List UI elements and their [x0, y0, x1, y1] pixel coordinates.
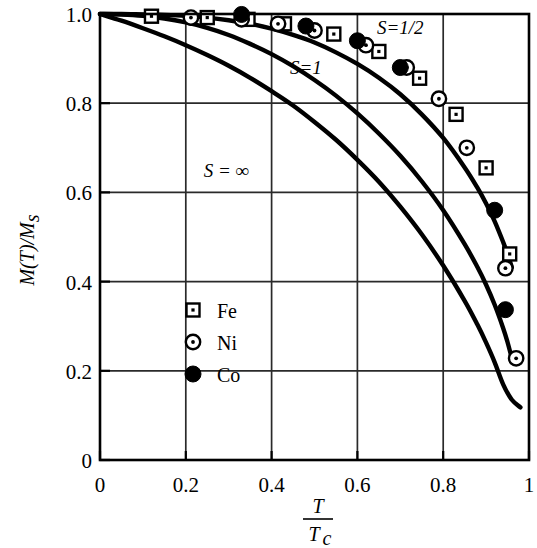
curve-label: S = ∞	[204, 160, 249, 181]
x-tick-label: 0.2	[173, 473, 199, 497]
x-axis-tick-labels: 00.20.40.60.81	[95, 473, 535, 497]
curve-label: S=1/2	[377, 17, 424, 38]
marker-circle-center-dot	[504, 266, 508, 270]
y-axis-tick-labels: 00.20.40.60.81.0	[66, 3, 93, 473]
curve-label: S=1	[290, 57, 322, 78]
marker-square-center-dot	[377, 50, 380, 53]
marker-circle-center-dot	[437, 97, 441, 101]
marker-square-center-dot	[508, 252, 511, 255]
marker-filled-circle	[487, 202, 503, 218]
x-tick-label: 0.4	[258, 473, 285, 497]
marker-square-center-dot	[418, 77, 421, 80]
marker-square-center-dot	[454, 113, 457, 116]
y-tick-label: 0	[82, 449, 93, 473]
y-axis-title: M(T)/Ms	[16, 214, 43, 286]
marker-circle-center-dot	[276, 22, 280, 26]
x-tick-label: 0.6	[344, 473, 370, 497]
legend-entry-ni: Ni	[186, 332, 238, 354]
data-markers	[145, 6, 523, 365]
svg-text:M(T)/Ms: M(T)/Ms	[16, 214, 43, 286]
legend: FeNiCo	[185, 300, 240, 386]
marker-square-center-dot	[332, 32, 335, 35]
y-tick-label: 0.4	[66, 271, 93, 295]
marker-square-center-dot	[191, 308, 194, 311]
legend-entry-co: Co	[185, 364, 240, 386]
marker-square-center-dot	[206, 16, 209, 19]
x-tick-label: 0	[95, 473, 106, 497]
marker-square-center-dot	[485, 166, 488, 169]
x-axis-title-denominator-subscript: c	[323, 527, 332, 548]
legend-label: Ni	[217, 332, 237, 354]
x-axis-title-numerator: T	[312, 495, 325, 517]
marker-filled-circle	[392, 60, 408, 76]
legend-label: Co	[217, 364, 240, 386]
legend-entry-fe: Fe	[187, 300, 238, 322]
marker-filled-circle	[185, 366, 201, 382]
x-axis-title-denominator: T	[308, 523, 321, 545]
y-axis-title-text: M(T)/M	[16, 221, 39, 287]
x-tick-label: 0.8	[430, 473, 456, 497]
y-tick-label: 0.2	[66, 360, 92, 384]
marker-filled-circle	[298, 18, 314, 34]
marker-circle-center-dot	[189, 16, 193, 20]
marker-circle-center-dot	[191, 340, 195, 344]
y-axis-title-subscript: s	[21, 214, 43, 222]
y-tick-label: 0.6	[66, 181, 92, 205]
y-tick-label: 0.8	[66, 92, 92, 116]
legend-label: Fe	[217, 300, 237, 322]
y-tick-label: 1.0	[66, 3, 92, 27]
theory-curve	[100, 14, 512, 267]
marker-circle-center-dot	[514, 356, 518, 360]
x-axis-title: T T c	[303, 495, 333, 548]
marker-filled-circle	[497, 302, 513, 318]
marker-circle-center-dot	[465, 146, 469, 150]
magnetization-vs-temperature-chart: 00.20.40.60.81 00.20.40.60.81.0 S=1/2S=1…	[0, 0, 537, 548]
x-tick-label: 1	[524, 473, 535, 497]
marker-filled-circle	[349, 33, 365, 49]
chart-canvas: 00.20.40.60.81 00.20.40.60.81.0 S=1/2S=1…	[0, 0, 537, 548]
